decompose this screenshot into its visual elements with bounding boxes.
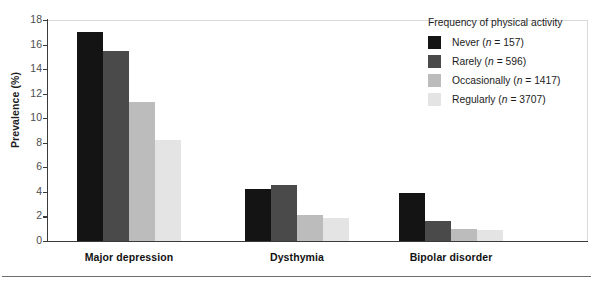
legend: Frequency of physical activity Never (n … <box>428 17 588 109</box>
footer-divider <box>2 276 591 277</box>
legend-item-label: Regularly (n = 3707) <box>452 94 546 105</box>
bar-occasionally-bipolar-disorder <box>451 229 477 241</box>
legend-item: Occasionally (n = 1417) <box>428 71 588 90</box>
legend-item: Rarely (n = 596) <box>428 52 588 71</box>
bar-rarely-dysthymia <box>271 185 297 242</box>
bar-group <box>245 20 349 241</box>
x-axis-line <box>47 241 588 242</box>
y-tick-label: 18 <box>20 13 42 25</box>
bar-occasionally-major-depression <box>129 102 155 241</box>
y-tick-label: 4 <box>20 185 42 197</box>
legend-item-label: Rarely (n = 596) <box>452 56 526 67</box>
legend-item: Never (n = 157) <box>428 33 588 52</box>
y-tick-label: 10 <box>20 111 42 123</box>
y-tick-label: 8 <box>20 136 42 148</box>
y-tick-label: 2 <box>20 209 42 221</box>
y-tick-label: 6 <box>20 160 42 172</box>
bar-never-major-depression <box>77 32 103 241</box>
legend-item-label: Never (n = 157) <box>452 37 524 48</box>
x-category-label: Major depression <box>49 251 209 263</box>
legend-title: Frequency of physical activity <box>428 17 588 28</box>
bar-regularly-dysthymia <box>323 218 349 241</box>
y-tick-label: 12 <box>20 87 42 99</box>
bar-regularly-bipolar-disorder <box>477 230 503 241</box>
x-category-label: Bipolar disorder <box>371 251 531 263</box>
y-tick-label: 14 <box>20 62 42 74</box>
bar-group <box>77 20 181 241</box>
bar-rarely-bipolar-disorder <box>425 221 451 241</box>
bar-never-bipolar-disorder <box>399 193 425 241</box>
legend-item: Regularly (n = 3707) <box>428 90 588 109</box>
legend-swatch-icon <box>428 93 441 106</box>
legend-swatch-icon <box>428 36 441 49</box>
legend-item-label: Occasionally (n = 1417) <box>452 75 560 86</box>
bar-rarely-major-depression <box>103 51 129 241</box>
legend-swatch-icon <box>428 55 441 68</box>
x-category-label: Dysthymia <box>217 251 377 263</box>
y-tick-label: 16 <box>20 38 42 50</box>
bar-occasionally-dysthymia <box>297 215 323 241</box>
bar-regularly-major-depression <box>155 140 181 241</box>
figure-chart: Prevalence (%) 024681012141618 Major dep… <box>0 0 593 283</box>
legend-items: Never (n = 157)Rarely (n = 596)Occasiona… <box>428 33 588 109</box>
y-tick-label: 0 <box>20 234 42 246</box>
bar-never-dysthymia <box>245 189 271 241</box>
legend-swatch-icon <box>428 74 441 87</box>
